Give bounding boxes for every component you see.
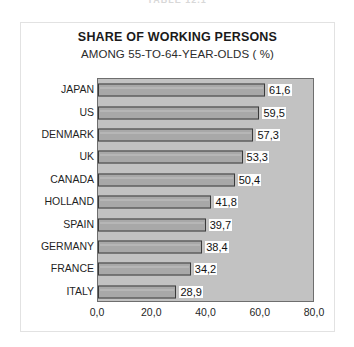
bar xyxy=(98,173,235,186)
clipped-header-text: TABLE 12.1 xyxy=(0,0,354,5)
plot-area: 61,659,557,353,350,441,839,738,434,228,9 xyxy=(97,78,314,302)
bar-highlight xyxy=(100,110,257,111)
bar-highlight xyxy=(100,177,233,178)
category-label: CANADA xyxy=(22,173,94,185)
category-label: ITALY xyxy=(22,285,94,297)
bar xyxy=(98,218,206,231)
bar-value-label: 53,3 xyxy=(246,151,269,163)
bar-highlight xyxy=(100,289,174,290)
category-label: US xyxy=(22,106,94,118)
value-tick-label: 40,0 xyxy=(195,306,215,318)
bar-highlight xyxy=(100,222,204,223)
bar xyxy=(98,263,191,276)
bar xyxy=(98,129,253,142)
chart-subtitle: AMONG 55-TO-64-YEAR-OLDS ( %) xyxy=(20,48,335,60)
bar-highlight xyxy=(100,88,263,89)
value-tick-label: 80,0 xyxy=(304,306,324,318)
bar-value-label: 59,5 xyxy=(262,107,285,119)
category-label: UK xyxy=(22,150,94,162)
bar xyxy=(98,151,243,164)
category-label: SPAIN xyxy=(22,218,94,230)
bar-value-label: 39,7 xyxy=(209,219,232,231)
bar-value-label: 38,4 xyxy=(205,241,228,253)
bar-highlight xyxy=(100,267,189,268)
value-tick-label: 0,0 xyxy=(90,306,105,318)
bar-highlight xyxy=(100,133,251,134)
category-label: JAPAN xyxy=(22,83,94,95)
bar xyxy=(98,196,211,209)
bar xyxy=(98,84,265,97)
category-label: HOLLAND xyxy=(22,195,94,207)
chart-title: SHARE OF WORKING PERSONS xyxy=(20,30,335,44)
bar-highlight xyxy=(100,155,241,156)
bar-value-label: 28,9 xyxy=(179,286,202,298)
category-axis: JAPANUSDENMARKUKCANADAHOLLANDSPAINGERMAN… xyxy=(22,78,94,302)
bar-highlight xyxy=(100,245,200,246)
bar xyxy=(98,106,259,119)
category-label: FRANCE xyxy=(22,262,94,274)
bar-value-label: 34,2 xyxy=(194,263,217,275)
clipped-header-strip: TABLE 12.1 xyxy=(0,0,354,10)
bars-layer: 61,659,557,353,350,441,839,738,434,228,9 xyxy=(98,79,313,301)
bar-value-label: 57,3 xyxy=(256,129,279,141)
category-label: GERMANY xyxy=(22,240,94,252)
bar-highlight xyxy=(100,200,209,201)
value-tick-label: 60,0 xyxy=(250,306,270,318)
bar xyxy=(98,241,202,254)
bar-value-label: 61,6 xyxy=(268,84,291,96)
bar xyxy=(98,285,176,298)
bar-value-label: 41,8 xyxy=(214,196,237,208)
value-tick-label: 20,0 xyxy=(141,306,161,318)
category-label: DENMARK xyxy=(22,128,94,140)
value-axis: 0,020,040,060,080,0 xyxy=(97,304,314,322)
bar-value-label: 50,4 xyxy=(238,174,261,186)
